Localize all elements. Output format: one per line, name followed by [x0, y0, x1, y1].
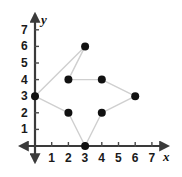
data-point-upper-right — [98, 76, 106, 84]
y-axis-label: y — [41, 13, 47, 26]
data-point-lower-left — [64, 109, 72, 117]
data-point-left-vertex — [31, 92, 39, 100]
data-point-top-vertex — [81, 42, 89, 50]
y-tick-label-7: 7 — [21, 24, 28, 36]
coordinate-plane-figure: 12345671234567 x y — [0, 0, 182, 177]
data-point-right-vertex — [131, 92, 139, 100]
y-tick-label-5: 5 — [21, 57, 28, 69]
x-axis-label: x — [163, 150, 170, 163]
y-tick-label-4: 4 — [21, 74, 28, 86]
x-tick-label-4: 4 — [98, 152, 105, 164]
y-tick-label-2: 2 — [21, 107, 28, 119]
y-tick-label-3: 3 — [21, 90, 28, 102]
star-polygon-edges — [35, 46, 135, 146]
y-tick-label-6: 6 — [21, 40, 28, 52]
star-polygon — [35, 46, 135, 146]
x-tick-label-1: 1 — [48, 152, 55, 164]
data-points — [31, 42, 139, 150]
data-point-upper-left — [64, 76, 72, 84]
x-tick-label-6: 6 — [132, 152, 139, 164]
data-point-lower-right — [98, 109, 106, 117]
x-tick-label-3: 3 — [82, 152, 89, 164]
x-tick-label-7: 7 — [148, 152, 155, 164]
axes-group — [20, 14, 168, 162]
x-tick-label-5: 5 — [115, 152, 122, 164]
y-tick-label-1: 1 — [21, 123, 28, 135]
x-tick-label-2: 2 — [65, 152, 72, 164]
data-point-bottom-vertex — [81, 142, 89, 150]
